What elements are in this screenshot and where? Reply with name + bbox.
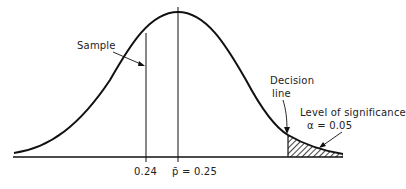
decision-line-label-1: Decision: [270, 75, 314, 86]
alpha-label: α = 0.05: [307, 120, 352, 131]
significance-label: Level of significance: [300, 107, 406, 118]
significance-arrow: [322, 132, 342, 146]
decision-arrow: [283, 100, 287, 131]
tick-label-sample: 0.24: [134, 166, 157, 177]
rejection-region: [288, 135, 343, 157]
tick-label-mean: p̄ = 0.25: [172, 166, 217, 177]
decision-line-label-2: line: [272, 88, 291, 99]
sample-label: Sample: [77, 40, 116, 51]
sample-arrow: [113, 52, 143, 65]
sample-arrowhead: [138, 61, 145, 66]
significance-arrowhead: [319, 142, 326, 148]
